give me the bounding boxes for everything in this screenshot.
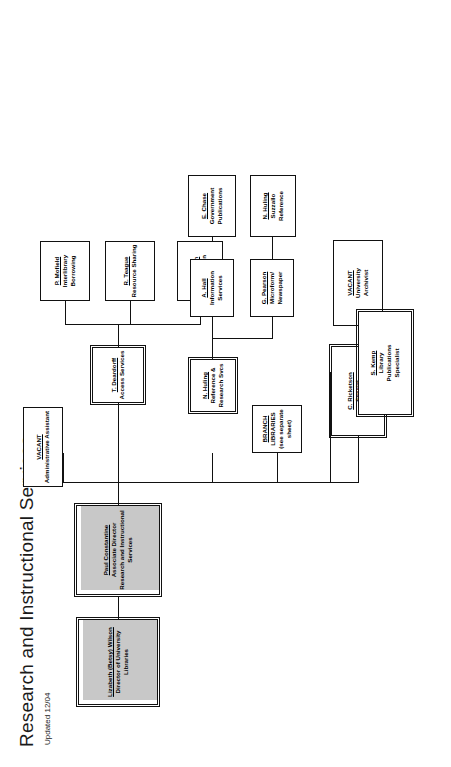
node-deardorff-name: T. Deardorff xyxy=(110,358,118,392)
org-chart-canvas: Research and Instructional Services Upda… xyxy=(0,0,451,767)
node-huling-name: N. Huling xyxy=(201,372,209,399)
node-wilson[interactable]: Lizabeth (Betsy) Wilson Director of Univ… xyxy=(78,619,158,705)
node-vacant-archivist-role: University Archivist xyxy=(354,268,370,298)
connector-pearson-huling2 xyxy=(272,237,273,259)
node-hall-name: A. Hall xyxy=(200,278,208,297)
node-vacant-admin-name: VACANT xyxy=(35,434,43,459)
node-branch-libraries-role: LIBRARIES (see separate sheet) xyxy=(269,409,293,449)
node-hall-role: Information Services xyxy=(208,271,224,305)
node-teague-name: R. Teague xyxy=(122,256,130,285)
connector-deardorff-teague xyxy=(130,301,131,325)
node-vacant-admin-role: Administrative Assistant xyxy=(43,411,51,483)
node-pearson-name: G. Pearson xyxy=(260,272,268,305)
node-constantine[interactable]: Paul Constantine Associate Director Rese… xyxy=(76,505,160,595)
node-constantine-name: Paul Constantine xyxy=(102,525,110,576)
connector-spine-deardorff xyxy=(118,403,119,483)
node-kemp[interactable]: S. Kemp Library Publications Specialist xyxy=(358,311,412,415)
connector-deardorff-out xyxy=(118,325,119,347)
node-mofield-role: Interlibrary Borrowing xyxy=(61,255,77,287)
bus-deardorff xyxy=(65,324,200,325)
node-teague[interactable]: R. Teague Resource Sharing xyxy=(105,241,155,301)
node-vacant-archivist-name: VACANT xyxy=(346,270,354,295)
node-ricketson-name: C. Ricketson xyxy=(346,372,354,409)
node-huling-suzzallo-name: N. Huling xyxy=(261,192,269,219)
node-huling[interactable]: N. Huling Reference & Research Svcs xyxy=(190,359,236,412)
connector-spine-huling xyxy=(212,453,213,483)
connector-spine-vacant-admin xyxy=(63,453,64,483)
node-deardorff[interactable]: T. Deardorff Access Services xyxy=(92,347,144,403)
connector-wilson-constantine xyxy=(118,597,119,619)
connector-spine-branch xyxy=(277,453,278,483)
node-wilson-name: Lizabeth (Betsy) Wilson xyxy=(106,627,114,697)
node-kemp-role: Library Publications Specialist xyxy=(377,345,401,382)
node-pearson[interactable]: G. Pearson Microform/ Newspaper xyxy=(250,259,294,317)
connector-spine-ricketson xyxy=(358,436,359,483)
node-teague-role: Resource Sharing xyxy=(130,245,138,298)
node-pearson-role: Microform/ Newspaper xyxy=(268,272,284,305)
node-huling-suzzallo-role: Suzzallo Reference xyxy=(269,191,285,221)
connector-constantine-spine xyxy=(118,483,119,505)
connector-huling-hall xyxy=(212,317,213,339)
node-chase[interactable]: E. Chase Government Publications xyxy=(188,175,236,237)
node-mofield-name: P. Mofield xyxy=(53,257,61,285)
node-chase-name: E. Chase xyxy=(200,193,208,219)
node-deardorff-role: Access Services xyxy=(118,351,126,400)
node-huling-role: Reference & Research Svcs xyxy=(209,363,225,407)
node-branch-libraries-name: BRANCH xyxy=(261,416,269,443)
node-chase-role: Government Publications xyxy=(208,188,224,225)
connector-huling-out xyxy=(212,339,213,359)
node-kemp-name: S. Kemp xyxy=(369,351,377,376)
spine-main xyxy=(63,482,358,483)
connector-huling-pearson xyxy=(272,317,273,339)
page-subtitle: Updated 12/04 xyxy=(43,693,52,746)
node-wilson-role: Director of University Libraries xyxy=(114,631,130,694)
node-mofield[interactable]: P. Mofield Interlibrary Borrowing xyxy=(40,241,90,301)
node-constantine-role: Associate Director Research and Instruct… xyxy=(110,510,134,589)
node-huling-suzzallo[interactable]: N. Huling Suzzallo Reference xyxy=(250,175,296,237)
connector-deardorff-mofield xyxy=(65,301,66,325)
node-hall[interactable]: A. Hall Information Services xyxy=(190,259,234,317)
node-branch-libraries[interactable]: BRANCH LIBRARIES (see separate sheet) xyxy=(252,405,302,453)
bus-huling xyxy=(212,338,272,339)
node-vacant-admin[interactable]: VACANT Administrative Assistant xyxy=(23,407,63,487)
